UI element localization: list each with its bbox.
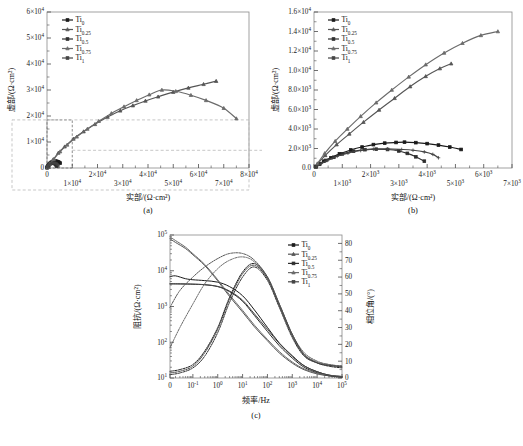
panel-c-x-tick-label: 103: [287, 380, 297, 390]
series-Ti0.75: [46, 88, 238, 168]
phase-series-Ti0.5: [170, 267, 342, 375]
panel-a-x-tick-label: 0: [45, 171, 49, 179]
panel-b-x-tick-label: 3×103: [390, 178, 408, 188]
phase-series-Ti1: [170, 265, 342, 373]
panel-b-y-tick-label: 2.0×103: [288, 143, 311, 153]
panel-a-x-tick-label: 1×104: [64, 178, 82, 188]
panel-c-x-tick-label: 10-1: [187, 380, 199, 390]
panel-a-y-tick-label: 1×104: [27, 136, 45, 146]
panel-c-x-tick-label: 101: [238, 380, 248, 390]
panel-b-y-axis-title: 虚部/(Ω·cm²): [270, 68, 280, 113]
panel-c-y2-tick-label: 60: [345, 273, 353, 281]
panel-b-y-tick-label: 0.0: [302, 164, 311, 172]
panel-b-x-tick-label: 2×103: [362, 169, 380, 179]
panel-a-y-axis-title: 虚部/(Ω·cm²): [6, 68, 16, 113]
panel-a-x-axis-title: 实部/(Ω·cm²): [126, 192, 171, 202]
panel-c-y2-axis-title: 相位角/(°): [365, 289, 375, 324]
panel-b-caption: (b): [408, 206, 418, 215]
panel-b-x-tick-label: 1×103: [334, 178, 352, 188]
panel-b-y-tick-label: 8.0×103: [288, 84, 311, 94]
panel-c-x-tick-label: 105: [337, 380, 347, 390]
panel-c-x-tick-label: 102: [263, 380, 273, 390]
panel-a-x-tick-label: 3×104: [114, 178, 132, 188]
panel-b-x-tick-label: 7×103: [503, 178, 521, 188]
panel-c-x-tick-label: 100: [213, 380, 223, 390]
panel-c-y-axis-title: 阻抗/(Ω·cm²): [132, 284, 142, 329]
panel-a-y-tick-label: 3×104: [27, 84, 45, 94]
panel-a-x-tick-label: 2×104: [89, 169, 107, 179]
phase-series-Ti0.25: [170, 253, 342, 366]
panel-c-y2-tick-label: 70: [345, 257, 353, 265]
panel-c: 10110210310410501020304050607080010-1100…: [130, 223, 393, 446]
panel-a: 01×1042×1043×1044×1045×1046×10401×1042×1…: [0, 0, 262, 223]
panel-a-svg: 01×1042×1043×1044×1045×1046×10401×1042×1…: [0, 0, 262, 223]
panel-a-x-tick-label: 4×104: [139, 169, 157, 179]
panel-c-x-axis-title: 频率/Hz: [242, 395, 270, 405]
panel-b-y-tick-label: 1.4×104: [288, 26, 311, 36]
panel-c-y-tick-label: 105: [157, 229, 167, 239]
panel-a-y-tick-label: 0: [40, 164, 44, 172]
panel-a-y-tick-label: 6×104: [27, 6, 45, 16]
panel-c-y-tick-label: 104: [157, 265, 167, 275]
panel-b-svg: 0.02.0×1034.0×1036.0×1038.0×1031.0×1041.…: [262, 0, 523, 223]
panel-a-x-tick-label: 7×104: [215, 178, 233, 188]
panel-b-x-tick-label: 0: [312, 171, 316, 179]
panel-c-y2-tick-label: 80: [345, 240, 353, 248]
panel-c-y2-tick-label: 20: [345, 341, 353, 349]
panel-c-y2-tick-label: 10: [345, 358, 353, 366]
panel-a-y-tick-label: 2×104: [27, 110, 45, 120]
panel-b-y-tick-label: 4.0×103: [288, 123, 311, 133]
panel-c-svg: 10110210310410501020304050607080010-1100…: [130, 223, 393, 446]
panel-b-x-tick-label: 6×103: [475, 169, 493, 179]
panel-a-caption: (a): [143, 206, 153, 215]
panel-c-x-tick-label: 104: [312, 380, 322, 390]
panel-b-x-tick-label: 4×103: [418, 169, 436, 179]
panel-a-y-tick-label: 5×104: [27, 32, 45, 42]
panel-c-x-tick-label: 0: [168, 382, 172, 390]
series-Ti0.25: [46, 79, 218, 168]
panel-b-y-tick-label: 6.0×103: [288, 104, 311, 114]
panel-c-y-tick-label: 101: [157, 372, 167, 382]
panel-a-x-tick-label: 6×104: [190, 169, 208, 179]
panel-a-x-tick-label: 5×104: [165, 178, 183, 188]
panel-a-y-tick-label: 4×104: [27, 58, 45, 68]
panel-c-y2-tick-label: 30: [345, 324, 353, 332]
figure-eis-plots: 01×1042×1043×1044×1045×1046×10401×1042×1…: [0, 0, 523, 446]
panel-b-x-axis-title: 实部/(Ω·cm²): [391, 192, 436, 202]
panel-c-y-tick-label: 102: [157, 337, 167, 347]
series-Ti0.25: [316, 62, 453, 166]
panel-b-x-tick-label: 5×103: [447, 178, 465, 188]
panel-c-y2-tick-label: 40: [345, 307, 353, 315]
legend-label: Ti1: [342, 53, 351, 64]
panel-c-y2-tick-label: 50: [345, 290, 353, 298]
panel-b-y-tick-label: 1.2×104: [288, 45, 311, 55]
panel-b-y-tick-label: 1.0×104: [288, 65, 311, 75]
legend-label: Ti1: [76, 53, 85, 64]
panel-a-x-tick-label: 8×104: [240, 169, 258, 179]
panel-c-y-tick-label: 103: [157, 301, 167, 311]
panel-b-y-tick-label: 1.6×104: [288, 6, 311, 16]
panel-b: 0.02.0×1034.0×1036.0×1038.0×1031.0×1041.…: [262, 0, 523, 223]
panel-c-caption: (c): [251, 411, 261, 420]
